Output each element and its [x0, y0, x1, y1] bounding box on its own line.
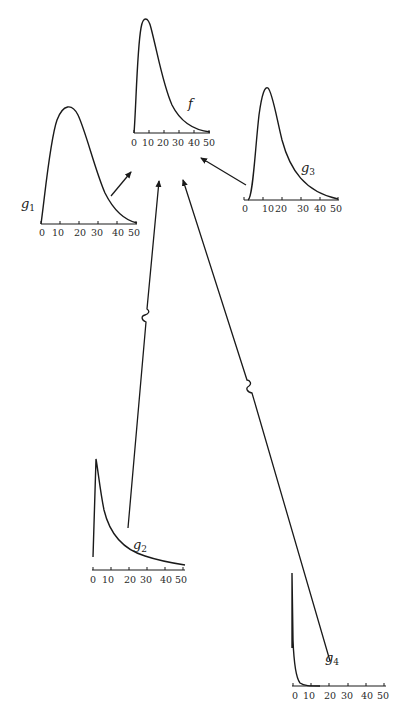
g3-curve — [248, 88, 338, 200]
g2-label: g2 — [133, 537, 147, 554]
panel-g3: 0 10 20 30 40 50 g3 — [242, 88, 342, 214]
svg-text:20: 20 — [124, 574, 136, 585]
svg-text:10: 10 — [262, 203, 274, 214]
svg-text:50: 50 — [175, 574, 187, 585]
svg-text:30: 30 — [297, 203, 309, 214]
g1-curve — [41, 107, 137, 224]
svg-text:20: 20 — [74, 227, 86, 238]
svg-text:20: 20 — [157, 137, 169, 148]
arrow-g1-to-f — [111, 172, 131, 196]
svg-text:30: 30 — [140, 574, 152, 585]
svg-text:50: 50 — [330, 203, 342, 214]
svg-text:0: 0 — [131, 137, 137, 148]
svg-text:30: 30 — [172, 137, 184, 148]
svg-text:10: 10 — [142, 137, 154, 148]
svg-text:0: 0 — [90, 574, 96, 585]
f-tick-labels: 0 10 20 30 40 50 — [131, 137, 215, 148]
g3-tick-labels: 0 10 20 30 40 50 — [242, 203, 342, 214]
svg-text:40: 40 — [160, 574, 172, 585]
svg-text:10: 10 — [102, 574, 114, 585]
diagram-canvas: 0 10 20 30 40 50 f 0 10 20 30 40 50 g1 — [0, 0, 406, 712]
svg-text:40: 40 — [361, 690, 373, 701]
svg-text:20: 20 — [324, 690, 336, 701]
f-curve — [134, 19, 210, 133]
svg-text:10: 10 — [303, 690, 315, 701]
svg-text:0: 0 — [39, 227, 45, 238]
arrow-g4-to-f — [183, 180, 330, 661]
svg-text:20: 20 — [275, 203, 287, 214]
g1-label: g1 — [21, 196, 35, 213]
g1-tick-labels: 0 10 20 30 40 50 — [39, 227, 140, 238]
svg-text:0: 0 — [242, 203, 248, 214]
panel-g1: 0 10 20 30 40 50 g1 — [21, 107, 140, 238]
g3-label: g3 — [301, 160, 315, 177]
svg-text:40: 40 — [112, 227, 124, 238]
svg-text:0: 0 — [292, 690, 298, 701]
svg-text:50: 50 — [203, 137, 215, 148]
g2-tick-labels: 0 10 20 30 40 50 — [90, 574, 187, 585]
arrow-g3-to-f — [201, 158, 246, 185]
svg-text:30: 30 — [341, 690, 353, 701]
svg-text:50: 50 — [377, 690, 389, 701]
svg-text:50: 50 — [128, 227, 140, 238]
panel-f: 0 10 20 30 40 50 f — [131, 19, 215, 148]
panel-g2: 0 10 20 30 40 50 g2 — [90, 459, 187, 585]
panel-g4: 0 10 20 30 40 50 g4 — [292, 573, 389, 701]
f-label: f — [187, 96, 195, 111]
g4-tick-labels: 0 10 20 30 40 50 — [292, 690, 389, 701]
svg-text:30: 30 — [91, 227, 103, 238]
svg-text:40: 40 — [188, 137, 200, 148]
g4-curve — [292, 573, 320, 686]
svg-text:40: 40 — [314, 203, 326, 214]
svg-text:10: 10 — [52, 227, 64, 238]
